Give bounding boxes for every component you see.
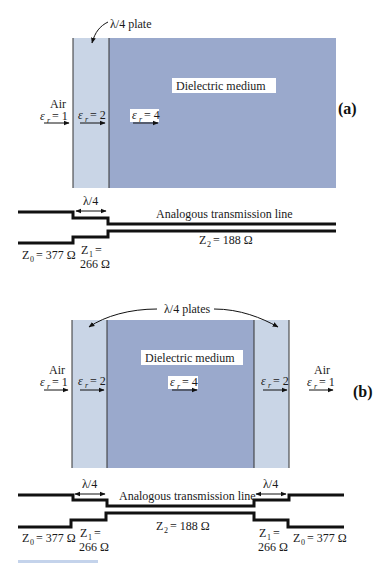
air-left-permittivity: ε r = 1: [40, 375, 68, 391]
svg-text:ε: ε: [40, 375, 45, 389]
medium-permittivity: ε r = 4: [170, 375, 198, 391]
z2-label: Z 2 = 188 Ω: [156, 519, 210, 535]
quarter-wave-plate-right: [254, 320, 289, 468]
z1-label: Z 1 = 266 Ω: [80, 243, 110, 271]
dielectric-medium-region: [107, 320, 254, 468]
z2-label: Z 2 = 188 Ω: [199, 233, 253, 249]
z0-left-label: Z 0 = 377 Ω: [22, 531, 76, 547]
transmission-line-a: λ/4 Analogous transmission line Z 0 = 37…: [18, 194, 336, 271]
svg-text:0: 0: [301, 538, 305, 547]
svg-text:= 1: = 1: [52, 375, 68, 389]
svg-text:0: 0: [30, 538, 34, 547]
svg-text:ε: ε: [78, 374, 83, 388]
medium-permittivity: ε r = 4: [132, 108, 160, 124]
svg-text:= 188 Ω: = 188 Ω: [213, 233, 253, 247]
tline-title: Analogous transmission line: [119, 489, 256, 503]
svg-text:2: 2: [207, 240, 211, 249]
svg-text:Z: Z: [22, 531, 29, 545]
svg-text:2: 2: [164, 526, 168, 535]
svg-text:= 377 Ω: = 377 Ω: [36, 248, 76, 262]
svg-text:Z: Z: [259, 526, 266, 540]
svg-text:= 2: = 2: [273, 374, 289, 388]
quarter-wave-label-left: λ/4: [82, 477, 97, 491]
tline-title: Analogous transmission line: [156, 207, 293, 221]
svg-text:= 377 Ω: = 377 Ω: [36, 531, 76, 545]
svg-text:ε: ε: [132, 108, 137, 122]
svg-text:=: =: [94, 526, 101, 540]
svg-text:Z: Z: [199, 233, 206, 247]
svg-text:266 Ω: 266 Ω: [80, 257, 110, 271]
svg-text:Z: Z: [22, 248, 29, 262]
svg-text:ε: ε: [170, 375, 175, 389]
svg-text:= 2: = 2: [90, 108, 106, 122]
svg-text:=: =: [95, 243, 102, 257]
z1-left-label: Z 1 = 266 Ω: [79, 526, 109, 554]
svg-text:r: r: [47, 116, 51, 125]
svg-text:ε: ε: [78, 108, 83, 122]
transmission-line-b: λ/4 λ/4 Analogous transmission line Z 0 …: [18, 477, 347, 554]
z0-right-label: Z 0 = 377 Ω: [293, 531, 347, 547]
svg-text:ε: ε: [261, 374, 266, 388]
svg-text:= 1: = 1: [319, 375, 335, 389]
svg-text:Z: Z: [81, 243, 88, 257]
quarter-wave-label-right: λ/4: [263, 477, 278, 491]
plate-permittivity: ε r = 2: [78, 108, 106, 124]
svg-text:Z: Z: [80, 526, 87, 540]
plate-annotation: λ/4 plate: [110, 17, 151, 31]
svg-text:266 Ω: 266 Ω: [79, 540, 109, 554]
svg-text:= 188 Ω: = 188 Ω: [170, 519, 210, 533]
svg-text:= 4: = 4: [182, 375, 198, 389]
svg-text:266 Ω: 266 Ω: [258, 540, 288, 554]
panel-b: λ/4 plates Dielectric medium Air ε r = 1…: [18, 302, 373, 554]
panel-label-b: (b): [353, 383, 373, 401]
plates-annotation: λ/4 plates: [164, 302, 210, 316]
svg-text:Z: Z: [156, 519, 163, 533]
panel-label-a: (a): [338, 100, 357, 118]
plate-left-permittivity: ε r = 2: [78, 374, 106, 390]
svg-text:0: 0: [30, 255, 34, 264]
svg-text:ε: ε: [40, 109, 45, 123]
svg-text:=: =: [273, 526, 280, 540]
panel-a: λ/4 plate Dielectric medium Air ε r = 1 …: [18, 17, 357, 271]
quarter-wave-plate-left: [72, 320, 107, 468]
air-right-permittivity: ε r = 1: [307, 375, 335, 391]
z0-label: Z 0 = 377 Ω: [22, 248, 76, 264]
svg-text:= 377 Ω: = 377 Ω: [307, 531, 347, 545]
medium-label: Dielectric medium: [145, 351, 235, 365]
tline-bottom-conductor: [18, 231, 336, 243]
plate-right-permittivity: ε r = 2: [261, 374, 289, 390]
quarter-wave-label: λ/4: [83, 194, 98, 208]
svg-text:= 2: = 2: [90, 374, 106, 388]
quarter-wave-matching-diagram: λ/4 plate Dielectric medium Air ε r = 1 …: [0, 0, 388, 563]
svg-text:ε: ε: [307, 375, 312, 389]
z1-right-label: Z 1 = 266 Ω: [258, 526, 288, 554]
svg-text:= 1: = 1: [52, 109, 68, 123]
medium-label: Dielectric medium: [176, 79, 266, 93]
svg-text:Z: Z: [293, 531, 300, 545]
svg-text:= 4: = 4: [144, 108, 160, 122]
